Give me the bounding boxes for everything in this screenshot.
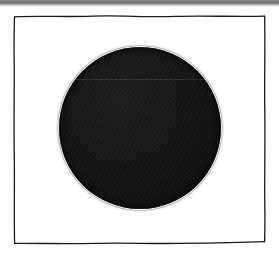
ink-grain-texture [59, 47, 221, 209]
figure-frame [0, 0, 279, 256]
solid-black-circle [59, 47, 221, 209]
scanned-page [0, 0, 279, 256]
